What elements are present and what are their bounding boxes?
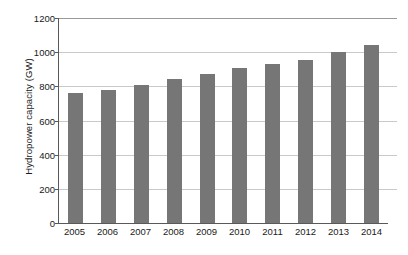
bar-2006 — [101, 90, 116, 223]
bar-slot — [191, 18, 224, 223]
plot-area: 020040060080010001200 — [58, 18, 388, 224]
bar-2008 — [167, 79, 182, 223]
x-tick-label-2008: 2008 — [157, 226, 190, 237]
hydropower-capacity-bar-chart: Hydropower capacity (GW) 020040060080010… — [0, 0, 408, 255]
bar-2009 — [200, 74, 215, 223]
bar-2014 — [364, 45, 379, 223]
bar-2007 — [134, 85, 149, 223]
x-tick-label-2009: 2009 — [190, 226, 223, 237]
bar-slot — [289, 18, 322, 223]
x-tick-label-2012: 2012 — [289, 226, 322, 237]
bar-2011 — [265, 64, 280, 223]
x-tick-label-2010: 2010 — [223, 226, 256, 237]
y-tick-label-1200: 1200 — [1, 13, 55, 24]
y-tick-label-400: 400 — [1, 149, 55, 160]
y-tick-label-200: 200 — [1, 183, 55, 194]
x-tick-label-2005: 2005 — [58, 226, 91, 237]
bar-slot — [92, 18, 125, 223]
x-axis-tick-labels: 2005200620072008200920102011201220132014 — [58, 226, 388, 237]
y-tick-mark-0 — [55, 223, 59, 224]
x-tick-label-2006: 2006 — [91, 226, 124, 237]
bar-slot — [355, 18, 388, 223]
bar-2005 — [68, 93, 83, 223]
x-tick-label-2007: 2007 — [124, 226, 157, 237]
x-tick-label-2013: 2013 — [322, 226, 355, 237]
bar-2012 — [298, 60, 313, 223]
bar-slot — [59, 18, 92, 223]
y-tick-label-800: 800 — [1, 81, 55, 92]
y-tick-label-600: 600 — [1, 115, 55, 126]
y-tick-label-1000: 1000 — [1, 47, 55, 58]
bar-2010 — [232, 68, 247, 223]
bar-slot — [224, 18, 257, 223]
bar-slot — [256, 18, 289, 223]
y-tick-label-0: 0 — [1, 218, 55, 229]
bar-2013 — [331, 52, 346, 223]
bars-container — [59, 18, 388, 223]
bar-slot — [125, 18, 158, 223]
bar-slot — [158, 18, 191, 223]
x-tick-label-2014: 2014 — [355, 226, 388, 237]
bar-slot — [322, 18, 355, 223]
x-tick-label-2011: 2011 — [256, 226, 289, 237]
